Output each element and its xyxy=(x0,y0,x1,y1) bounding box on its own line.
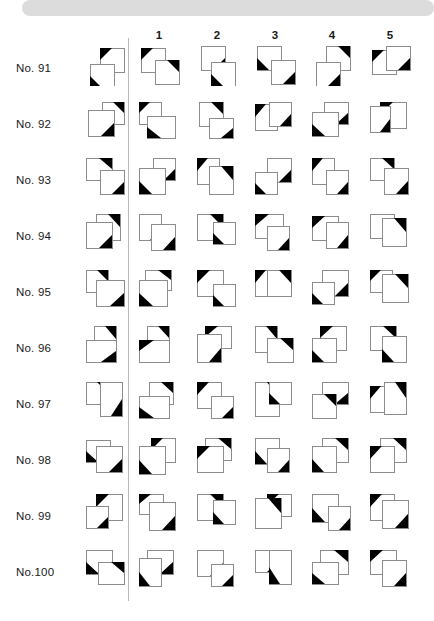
option-cell-2[interactable] xyxy=(195,380,251,436)
option-cell-4[interactable] xyxy=(310,380,366,436)
question-row: No. 98 xyxy=(0,436,432,492)
option-cell-1[interactable] xyxy=(137,324,193,380)
option-figure-1 xyxy=(137,156,181,198)
prompt-figure xyxy=(84,100,128,142)
option-cell-2[interactable] xyxy=(195,324,251,380)
option-cell-4[interactable] xyxy=(310,436,366,492)
option-figure-1-square-2 xyxy=(152,225,176,251)
option-cell-1[interactable] xyxy=(137,212,193,268)
option-cell-3[interactable] xyxy=(253,268,309,324)
option-cell-1[interactable] xyxy=(137,380,193,436)
option-cell-1[interactable] xyxy=(137,548,193,604)
question-row: No. 94 xyxy=(0,212,432,268)
option-figure-2 xyxy=(195,156,239,198)
option-cell-3[interactable] xyxy=(253,156,309,212)
option-cell-5[interactable] xyxy=(368,380,424,436)
option-figure-4-square-2 xyxy=(329,507,351,531)
option-cell-2[interactable] xyxy=(195,44,251,100)
option-figure-1 xyxy=(137,212,181,254)
prompt-figure-cell xyxy=(84,548,140,604)
option-cell-5[interactable] xyxy=(368,436,424,492)
option-cell-3[interactable] xyxy=(253,436,309,492)
option-cell-4[interactable] xyxy=(310,156,366,212)
option-figure-1 xyxy=(137,492,181,534)
option-figure-1-square-2 xyxy=(147,117,176,139)
option-figure-3 xyxy=(253,548,297,590)
option-figure-3 xyxy=(253,100,297,142)
option-cell-5[interactable] xyxy=(368,44,424,100)
option-figure-5-square-2 xyxy=(382,337,407,363)
option-figure-4 xyxy=(310,268,354,310)
option-cell-2[interactable] xyxy=(195,492,251,548)
prompt-figure xyxy=(84,380,128,422)
prompt-figure-square-2 xyxy=(87,341,117,363)
option-cell-1[interactable] xyxy=(137,100,193,156)
prompt-figure-cell xyxy=(84,212,140,268)
option-cell-1[interactable] xyxy=(137,156,193,212)
option-figure-3-square-2 xyxy=(270,103,292,127)
option-figure-5-square-2 xyxy=(383,218,407,247)
option-cell-3[interactable] xyxy=(253,44,309,100)
option-cell-2[interactable] xyxy=(195,436,251,492)
option-cell-1[interactable] xyxy=(137,44,193,100)
option-figure-4-square-2 xyxy=(327,223,349,249)
option-cell-5[interactable] xyxy=(368,492,424,548)
option-cell-4[interactable] xyxy=(310,268,366,324)
question-row: No. 91 xyxy=(0,44,432,100)
option-cell-5[interactable] xyxy=(368,268,424,324)
option-cell-1[interactable] xyxy=(137,436,193,492)
option-cell-4[interactable] xyxy=(310,324,366,380)
option-cell-3[interactable] xyxy=(253,100,309,156)
column-header-3: 3 xyxy=(265,27,285,43)
column-header-row: 12345 xyxy=(0,27,432,43)
prompt-figure-cell xyxy=(84,380,140,436)
question-number-label: No. 91 xyxy=(16,62,82,74)
option-figure-3-square-2 xyxy=(268,338,294,363)
option-cell-5[interactable] xyxy=(368,100,424,156)
option-cell-4[interactable] xyxy=(310,212,366,268)
option-cell-3[interactable] xyxy=(253,212,309,268)
option-cell-2[interactable] xyxy=(195,268,251,324)
option-figure-3-square-2 xyxy=(268,449,290,473)
option-cell-5[interactable] xyxy=(368,324,424,380)
question-number-label: No. 99 xyxy=(16,510,82,522)
option-cell-3[interactable] xyxy=(253,380,309,436)
option-figure-3 xyxy=(253,156,297,198)
question-number-label: No. 92 xyxy=(16,118,82,130)
option-figure-2-square-2 xyxy=(212,565,234,587)
option-figure-1-square-2 xyxy=(139,169,166,195)
question-row: No. 92 xyxy=(0,100,432,156)
option-cell-5[interactable] xyxy=(368,212,424,268)
option-cell-2[interactable] xyxy=(195,548,251,604)
option-figure-3 xyxy=(253,324,297,366)
option-cell-1[interactable] xyxy=(137,492,193,548)
option-cell-3[interactable] xyxy=(253,492,309,548)
option-figure-2 xyxy=(195,548,239,590)
option-cell-4[interactable] xyxy=(310,44,366,100)
option-cell-2[interactable] xyxy=(195,212,251,268)
prompt-figure-cell xyxy=(84,268,140,324)
option-cell-3[interactable] xyxy=(253,548,309,604)
option-cell-4[interactable] xyxy=(310,100,366,156)
option-cell-3[interactable] xyxy=(253,324,309,380)
option-cell-5[interactable] xyxy=(368,156,424,212)
option-cell-4[interactable] xyxy=(310,548,366,604)
option-figure-3-square-2 xyxy=(268,227,290,251)
prompt-figure-cell xyxy=(84,492,140,548)
prompt-figure-cell xyxy=(84,324,140,380)
header-banner xyxy=(22,0,434,16)
question-number-label: No. 98 xyxy=(16,454,82,466)
option-figure-3 xyxy=(253,436,297,478)
option-figure-4 xyxy=(310,380,354,422)
option-figure-2 xyxy=(195,44,239,86)
option-figure-3-square-2 xyxy=(255,173,278,195)
option-figure-5 xyxy=(368,380,412,422)
option-cell-2[interactable] xyxy=(195,156,251,212)
option-cell-1[interactable] xyxy=(137,268,193,324)
option-cell-5[interactable] xyxy=(368,548,424,604)
option-cell-2[interactable] xyxy=(195,100,251,156)
option-figure-4-square-2 xyxy=(313,394,337,419)
option-cell-4[interactable] xyxy=(310,492,366,548)
question-row: No. 95 xyxy=(0,268,432,324)
option-figure-5-square-2 xyxy=(385,169,409,195)
